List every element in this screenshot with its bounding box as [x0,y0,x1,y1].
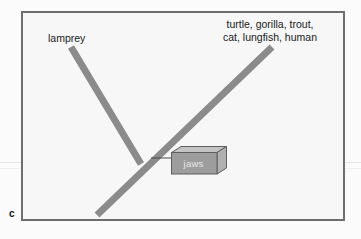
panel-letter: c [9,208,15,219]
taxon-label-crown-line-2: cat, lungfish, human [206,31,334,44]
taxon-label-crown-line-1: turtle, gorilla, trout, [206,18,334,31]
jaws-box-label: jaws [171,158,216,169]
taxon-label-lamprey: lamprey [48,32,85,45]
taxon-label-crown-clade: turtle, gorilla, trout, cat, lungfish, h… [206,18,334,43]
jaws-character-box: jaws [171,146,227,175]
figure-canvas: lamprey turtle, gorilla, trout, cat, lun… [0,0,361,239]
branch-lamprey [71,47,141,164]
